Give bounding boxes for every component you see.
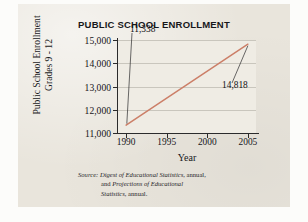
y-tick-label-11000: 11,000 (85, 128, 111, 139)
plot-area: 15,000 14,000 13,000 12,000 11,000 1990 … (118, 40, 256, 133)
source-note-title-2: Projections of Educational (112, 180, 183, 187)
source-note-title-3: Statistics (101, 190, 125, 197)
source-note-line-2: and Projections of Educational (78, 179, 268, 188)
y-axis-title-line-2: Grades 9 - 12 (43, 13, 55, 117)
x-tick-label-2000: 2000 (198, 137, 217, 147)
source-note-line-1: Source: Digest of Educational Statistics… (78, 170, 268, 179)
y-tick-label-15000: 15,000 (85, 35, 111, 46)
figure-root: PUBLIC SCHOOL ENROLLMENT Public School E… (0, 0, 308, 222)
source-note: Source: Digest of Educational Statistics… (78, 170, 268, 198)
source-note-tail-3: , annual. (125, 190, 148, 197)
x-axis-title: Year (118, 152, 256, 163)
figure-card: PUBLIC SCHOOL ENROLLMENT Public School E… (18, 4, 290, 207)
annotation-leader-start (127, 33, 132, 124)
x-tick-label-1990: 1990 (117, 137, 136, 147)
source-note-line-3: Statistics, annual. (78, 189, 268, 198)
source-note-lead-2: and (101, 180, 112, 187)
annotation-leader-end (232, 46, 248, 83)
source-note-tail-1: , annual, (183, 171, 206, 178)
annotation-end-value: 14,818 (222, 80, 248, 90)
source-note-label: Source: (78, 171, 98, 178)
y-axis-title-line-1: Public School Enrollment (31, 13, 43, 117)
y-tick-label-12000: 12,000 (85, 104, 111, 115)
y-axis-title: Public School Enrollment Grades 9 - 12 (31, 13, 61, 117)
y-tick-label-13000: 13,000 (85, 81, 111, 92)
annotation-start-value: 11,338 (130, 24, 155, 34)
x-tick-label-1995: 1995 (157, 137, 176, 147)
y-tick-label-14000: 14,000 (85, 58, 111, 69)
x-tick-label-2005: 2005 (239, 137, 258, 147)
source-note-title-1: Digest of Educational Statistics (100, 171, 183, 178)
